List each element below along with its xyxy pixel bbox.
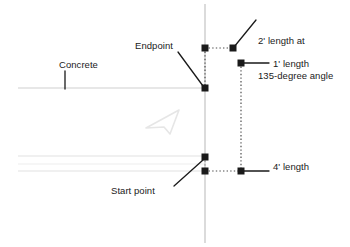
handle-top-left[interactable] [202,45,209,52]
start-point-label: Start point [111,185,155,197]
construction-dotted-lines [205,48,241,171]
dimension-label-2ft-line1: 2' length at [258,35,333,47]
handle-right-lower[interactable] [238,168,245,175]
leader-dim-2ft [234,20,256,47]
dimension-label-4ft: 4' length [273,161,309,173]
handle-start-lower[interactable] [202,168,209,175]
diagram-canvas: 2' length at 135-degree angle 1' length … [0,0,350,247]
dimension-label-2ft-line2: 135-degree angle [258,70,333,82]
handle-top-right[interactable] [230,45,237,52]
pointer-cursor-icon [146,110,179,134]
handle-right-upper[interactable] [238,60,245,67]
handle-endpoint[interactable] [202,85,209,92]
handle-start-upper[interactable] [202,154,209,161]
selection-handles[interactable] [202,45,245,175]
concrete-label: Concrete [59,59,98,71]
endpoint-label: Endpoint [135,40,173,52]
concrete-hatch-lines [18,156,205,171]
leader-endpoint [178,52,203,86]
dimension-label-1ft: 1' length [273,58,309,70]
